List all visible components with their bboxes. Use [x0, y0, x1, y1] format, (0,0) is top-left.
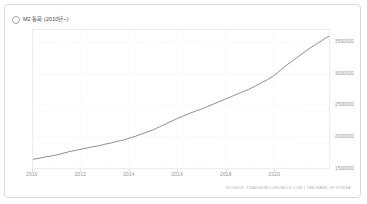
x-axis-tick-label: 2012 [75, 173, 86, 178]
vertical-gridlines [33, 30, 274, 168]
y-axis-tick-label: 2000000 [335, 135, 354, 140]
m2-line-series [33, 36, 329, 159]
source-attribution: SOURCE: TRADINGECONOMICS.COM | THE BANK … [226, 187, 351, 191]
chart-header: M2 통화 (2010년~) [12, 14, 69, 26]
y-axis-tick-label: 2500000 [335, 103, 354, 108]
y-axis-tick-label: 1500000 [335, 167, 354, 172]
horizontal-gridlines [33, 43, 329, 168]
chart-svg [33, 30, 329, 168]
y-axis-tick-label: 3000000 [335, 71, 354, 76]
x-axis-tick-label: 2010 [26, 173, 37, 178]
y-axis-tick-label: 3500000 [335, 39, 354, 44]
x-axis-tick-label: 2016 [172, 173, 183, 178]
x-axis-tick-label: 2020 [269, 173, 280, 178]
circle-marker-icon [12, 16, 20, 24]
x-axis-tick-label: 2014 [123, 173, 134, 178]
x-axis-tick-label: 2018 [220, 173, 231, 178]
chart-card: M2 통화 (2010년~) 3500000300000025000002000… [4, 4, 361, 198]
plot-area [32, 29, 330, 169]
page-title: M2 통화 (2010년~) [23, 17, 69, 22]
